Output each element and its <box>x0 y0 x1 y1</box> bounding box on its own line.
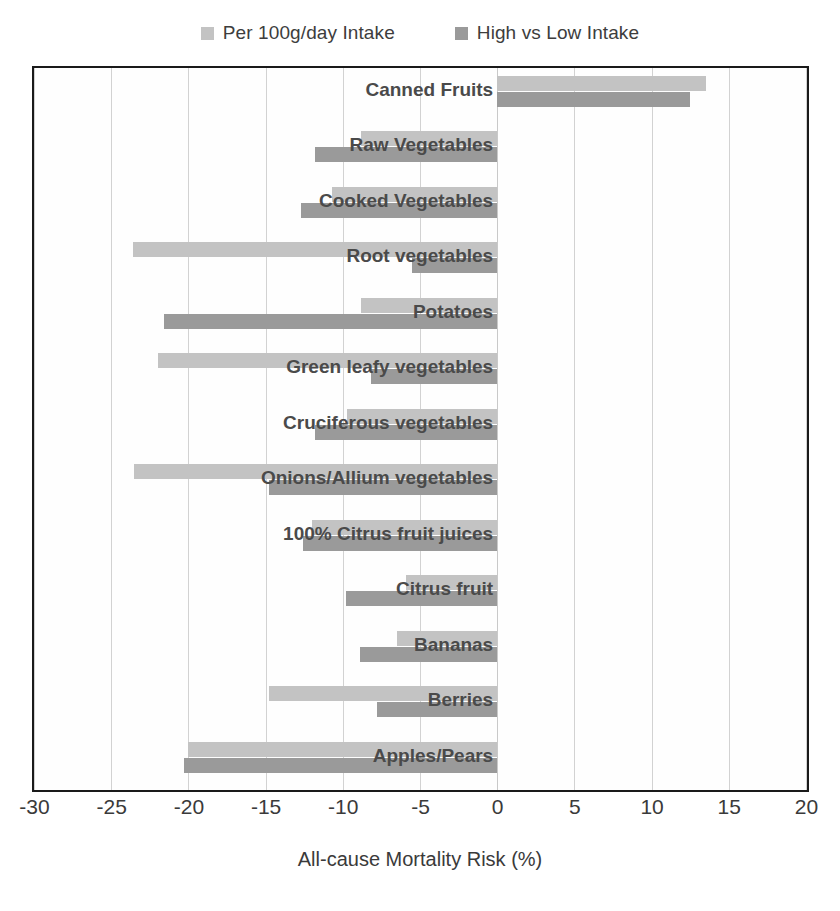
bar-series-group: Canned FruitsRaw VegetablesCooked Vegeta… <box>34 68 807 790</box>
x-tick-label: 15 <box>718 795 741 819</box>
bar-row: Cooked Vegetables <box>34 179 807 234</box>
x-tick-label: 5 <box>569 795 581 819</box>
legend-label: High vs Low Intake <box>477 22 639 44</box>
bar-row: 100% Citrus fruit juices <box>34 512 807 567</box>
chart-legend: Per 100g/day Intake High vs Low Intake <box>0 22 840 44</box>
legend-swatch-icon <box>455 27 468 40</box>
x-axis-ticks: -30-25-20-15-10-505101520 <box>0 795 840 825</box>
x-tick-label: 0 <box>492 795 504 819</box>
bar-row: Cruciferous vegetables <box>34 401 807 456</box>
bar-row: Bananas <box>34 623 807 678</box>
category-label: Apples/Pears <box>373 741 497 771</box>
x-tick-label: -30 <box>19 795 49 819</box>
legend-item-per-100g[interactable]: Per 100g/day Intake <box>201 22 395 44</box>
bar-per-100g[interactable] <box>497 76 705 91</box>
bar-row: Berries <box>34 678 807 733</box>
category-label: Raw Vegetables <box>350 130 498 160</box>
x-tick-label: -5 <box>411 795 430 819</box>
bar-row: Potatoes <box>34 290 807 345</box>
x-tick-label: -25 <box>97 795 127 819</box>
bar-row: Root vegetables <box>34 234 807 289</box>
category-label: Onions/Allium vegetables <box>261 463 497 493</box>
x-tick-label: -20 <box>174 795 204 819</box>
category-label: 100% Citrus fruit juices <box>283 519 497 549</box>
category-label: Root vegetables <box>346 241 497 271</box>
category-label: Green leafy vegetables <box>286 352 497 382</box>
category-label: Canned Fruits <box>365 75 497 105</box>
legend-item-high-vs-low[interactable]: High vs Low Intake <box>455 22 639 44</box>
x-tick-label: -10 <box>328 795 358 819</box>
legend-swatch-icon <box>201 27 214 40</box>
category-label: Cruciferous vegetables <box>283 408 497 438</box>
x-axis-title: All-cause Mortality Risk (%) <box>0 848 840 871</box>
bar-row: Canned Fruits <box>34 68 807 123</box>
bar-row: Raw Vegetables <box>34 123 807 178</box>
bar-high-vs-low[interactable] <box>497 92 690 107</box>
category-label: Citrus fruit <box>396 574 497 604</box>
category-label: Cooked Vegetables <box>319 186 497 216</box>
bar-row: Apples/Pears <box>34 734 807 789</box>
x-tick-label: -15 <box>251 795 281 819</box>
bar-row: Citrus fruit <box>34 567 807 622</box>
legend-label: Per 100g/day Intake <box>223 22 395 44</box>
x-tick-label: 20 <box>795 795 818 819</box>
bar-row: Green leafy vegetables <box>34 345 807 400</box>
bar-row: Onions/Allium vegetables <box>34 456 807 511</box>
category-label: Berries <box>428 685 498 715</box>
chart-container: Per 100g/day Intake High vs Low Intake C… <box>0 0 840 911</box>
x-tick-label: 10 <box>640 795 663 819</box>
plot-area: Canned FruitsRaw VegetablesCooked Vegeta… <box>32 66 809 792</box>
category-label: Bananas <box>414 630 497 660</box>
category-label: Potatoes <box>413 297 497 327</box>
